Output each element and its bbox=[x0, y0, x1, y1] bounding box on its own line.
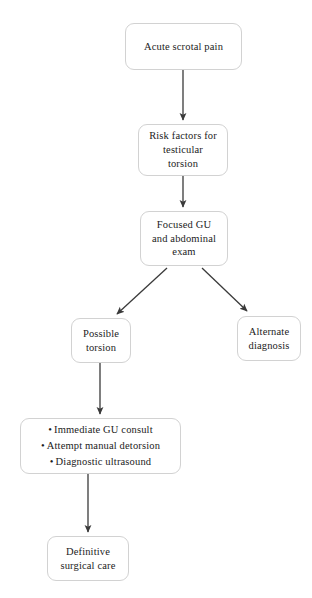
list-item: •Immediate GU consult bbox=[41, 422, 160, 438]
bullet-icon: • bbox=[50, 456, 54, 467]
management-bullet-list: •Immediate GU consult •Attempt manual de… bbox=[41, 422, 160, 469]
list-item-label: Diagnostic ultrasound bbox=[56, 456, 152, 467]
node-label: Focused GU and abdominal exam bbox=[152, 218, 216, 260]
node-definitive-care: Definitive surgical care bbox=[47, 536, 129, 581]
bullet-icon: • bbox=[41, 440, 45, 451]
list-item-label: Attempt manual detorsion bbox=[47, 440, 160, 451]
node-possible-torsion: Possible torsion bbox=[71, 318, 131, 363]
edge-exam-to-torsion bbox=[117, 268, 167, 314]
node-focused-exam: Focused GU and abdominal exam bbox=[140, 211, 228, 266]
list-item-label: Immediate GU consult bbox=[54, 424, 153, 435]
node-label: Risk factors for testicular torsion bbox=[149, 129, 217, 171]
node-label: Alternate diagnosis bbox=[248, 325, 289, 353]
list-item: •Attempt manual detorsion bbox=[41, 438, 160, 454]
list-item: •Diagnostic ultrasound bbox=[41, 454, 160, 470]
node-management-steps: •Immediate GU consult •Attempt manual de… bbox=[20, 418, 181, 474]
connector-layer bbox=[0, 0, 312, 598]
flowchart-canvas: Acute scrotal pain Risk factors for test… bbox=[0, 0, 312, 598]
node-label: Possible torsion bbox=[83, 327, 119, 355]
node-label: Definitive surgical care bbox=[60, 545, 115, 573]
node-alternate-diagnosis: Alternate diagnosis bbox=[237, 316, 301, 361]
node-risk-factors: Risk factors for testicular torsion bbox=[138, 124, 228, 176]
node-label: Acute scrotal pain bbox=[144, 40, 223, 54]
edge-exam-to-alternate bbox=[202, 268, 247, 311]
bullet-icon: • bbox=[48, 424, 52, 435]
node-acute-scrotal-pain: Acute scrotal pain bbox=[125, 23, 242, 70]
